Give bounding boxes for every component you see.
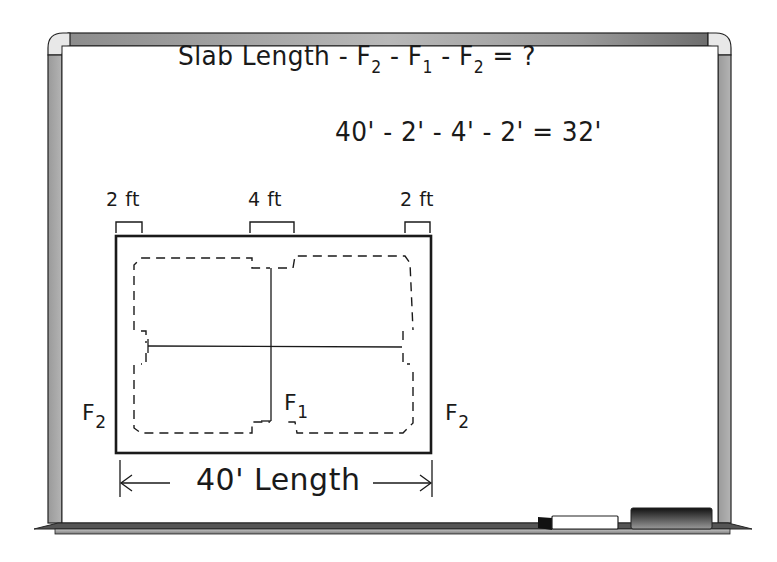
formula-sub-1: 1 — [423, 57, 433, 77]
whiteboard-graphic — [0, 0, 777, 562]
label-subscript: 2 — [458, 412, 469, 432]
label-subscript: 2 — [95, 412, 106, 432]
board-frame — [48, 33, 731, 523]
label-2ft-right: 2 ft — [400, 188, 434, 210]
formula-equals: = ? — [484, 40, 536, 71]
formula-sub-2: 2 — [474, 57, 484, 77]
formula-slab-length: Slab Length — [178, 40, 330, 71]
formula-heading: Slab Length - F2 - F1 - F2 = ? — [178, 40, 536, 77]
label-4ft-center: 4 ft — [248, 188, 282, 210]
formula-minus-f: - F — [433, 40, 474, 71]
label-f1: F1 — [284, 390, 308, 422]
label-f2-right: F2 — [445, 400, 469, 432]
label-2ft-left: 2 ft — [106, 188, 140, 210]
formula-minus-f: - F — [382, 40, 423, 71]
label-letter: F — [445, 400, 458, 425]
formula-minus-f: - F — [330, 40, 371, 71]
calculation-line: 40' - 2' - 4' - 2' = 32' — [335, 116, 602, 147]
marker-icon[interactable] — [538, 516, 618, 530]
formula-sub-2: 2 — [371, 57, 381, 77]
eraser-icon[interactable] — [631, 508, 712, 529]
overall-length-label: 40' Length — [190, 462, 366, 497]
label-f2-left: F2 — [82, 400, 106, 432]
label-letter: F — [82, 400, 95, 425]
whiteboard-scene: Slab Length - F2 - F1 - F2 = ? 40' - 2' … — [0, 0, 777, 562]
label-subscript: 1 — [297, 402, 308, 422]
label-letter: F — [284, 390, 297, 415]
